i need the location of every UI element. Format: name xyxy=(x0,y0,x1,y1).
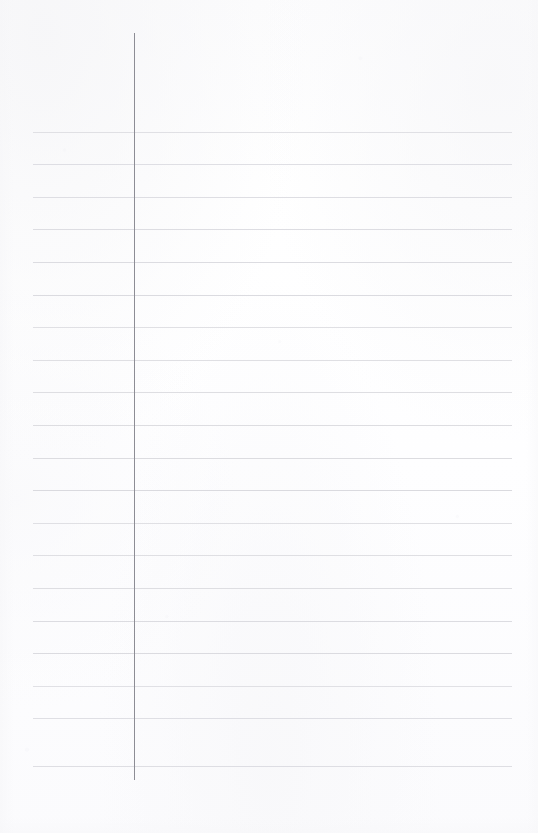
notebook-page xyxy=(0,0,538,833)
blank-writing-area[interactable] xyxy=(33,131,512,771)
